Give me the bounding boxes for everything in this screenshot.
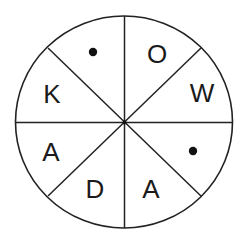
sector-label-top-right: O (147, 39, 167, 69)
sector-label-bottom-right: A (142, 174, 160, 204)
sector-label-left-upper: K (43, 79, 61, 109)
sector-label-left-lower: A (42, 137, 60, 167)
sector-label-right-upper: W (190, 78, 215, 108)
sector-label-bottom-left: D (86, 174, 105, 204)
sector-dot-top-left (89, 48, 97, 56)
sector-dot-right-lower (189, 147, 197, 155)
sector-circle-diagram: O W A D A K (0, 0, 245, 233)
center-point (123, 121, 127, 125)
